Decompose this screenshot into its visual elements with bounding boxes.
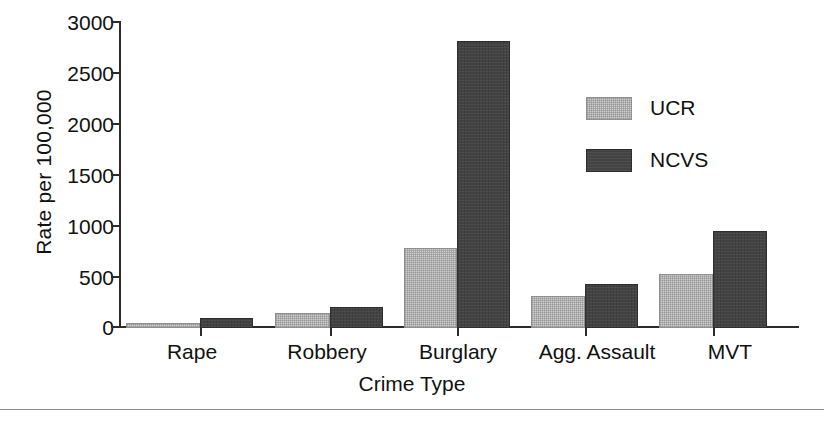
legend-swatch-ncvs-icon: [586, 149, 632, 172]
x-tick-mark-burglary: [457, 328, 459, 336]
bar-chart-figure: Rate per 100,000 3000 2500 2000 1500 100…: [0, 0, 824, 426]
x-category-label-burglary: Burglary: [419, 340, 497, 364]
x-category-label-agg-assault: Agg. Assault: [539, 340, 656, 364]
x-category-label-mvt: MVT: [708, 340, 752, 364]
bar-ncvs-agg-assault: [585, 284, 638, 328]
bar-ncvs-robbery: [330, 307, 383, 328]
bar-ncvs-mvt: [713, 231, 767, 328]
legend-label-ucr: UCR: [650, 96, 696, 120]
bar-ncvs-burglary: [457, 41, 510, 328]
x-category-label-robbery: Robbery: [287, 340, 366, 364]
x-tick-mark-agg-assault: [585, 328, 587, 336]
legend-swatch-ucr-icon: [586, 97, 632, 120]
x-category-label-rape: Rape: [167, 340, 217, 364]
x-tick-mark-mvt: [713, 328, 715, 336]
y-axis-line: [119, 21, 121, 328]
footer-divider: [0, 409, 824, 410]
bar-ucr-burglary: [404, 248, 457, 328]
y-axis-tick-labels: 3000 2500 2000 1500 1000 500 0: [40, 0, 114, 426]
legend-item-ncvs: NCVS: [586, 148, 708, 172]
bar-ncvs-rape: [200, 318, 253, 328]
x-tick-mark-robbery: [330, 328, 332, 336]
x-axis-title: Crime Type: [0, 372, 824, 396]
bar-ucr-agg-assault: [531, 296, 585, 328]
y-tick-label-2500: 2500: [42, 63, 114, 84]
y-tick-label-2000: 2000: [42, 114, 114, 135]
y-tick-label-500: 500: [42, 267, 114, 288]
bar-ucr-robbery: [275, 313, 330, 328]
legend-label-ncvs: NCVS: [650, 148, 708, 172]
y-tick-label-0: 0: [42, 317, 114, 338]
y-tick-label-3000: 3000: [42, 12, 114, 33]
x-tick-mark-rape: [200, 328, 202, 336]
y-tick-label-1000: 1000: [42, 216, 114, 237]
y-tick-label-1500: 1500: [42, 165, 114, 186]
bar-ucr-mvt: [659, 274, 713, 328]
legend-item-ucr: UCR: [586, 96, 696, 120]
bar-ucr-rape: [126, 323, 200, 328]
